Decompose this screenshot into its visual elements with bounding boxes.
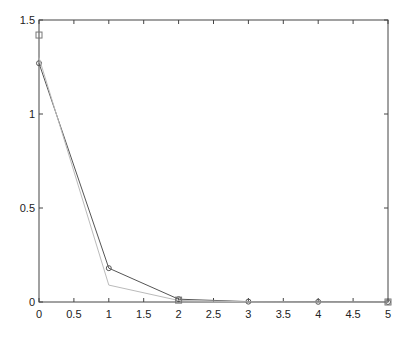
- series-line-1: [39, 58, 388, 302]
- x-tick-label: 4: [315, 308, 321, 320]
- x-tick-label: 4.5: [345, 308, 360, 320]
- y-tick-label: 0.5: [20, 202, 35, 214]
- x-tick-label: 3.5: [276, 308, 291, 320]
- y-tick-label: 1.5: [20, 14, 35, 26]
- chart: 00.511.522.533.544.5500.511.5: [0, 0, 409, 343]
- plot-frame: [39, 20, 388, 302]
- x-tick-label: 5: [385, 308, 391, 320]
- x-tick-label: 0: [36, 308, 42, 320]
- series-line-0: [39, 63, 388, 302]
- x-tick-label: 1: [106, 308, 112, 320]
- x-tick-label: 0.5: [66, 308, 81, 320]
- y-tick-label: 1: [29, 108, 35, 120]
- x-tick-label: 1.5: [136, 308, 151, 320]
- y-tick-label: 0: [29, 296, 35, 308]
- x-tick-label: 3: [245, 308, 251, 320]
- x-tick-label: 2.5: [206, 308, 221, 320]
- line-chart: 00.511.522.533.544.5500.511.5: [0, 0, 409, 343]
- x-tick-label: 2: [176, 308, 182, 320]
